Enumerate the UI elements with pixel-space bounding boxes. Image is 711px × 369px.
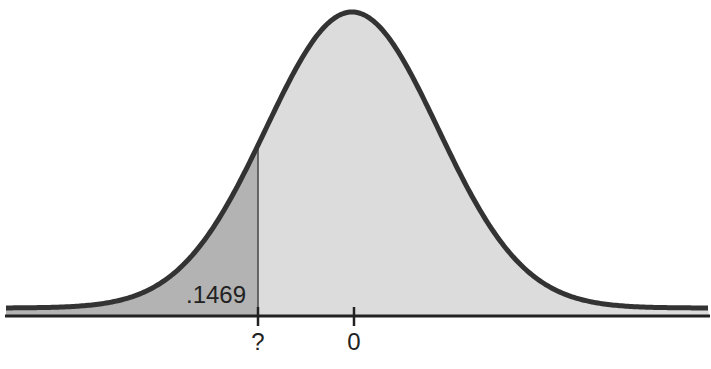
tick-label-zero: 0 [347, 328, 360, 355]
shaded-area-value: .1469 [186, 281, 246, 308]
normal-distribution-chart: .1469 ? 0 [0, 0, 711, 369]
curve-area-unshaded [6, 12, 709, 316]
tick-label-unknown: ? [251, 328, 264, 355]
